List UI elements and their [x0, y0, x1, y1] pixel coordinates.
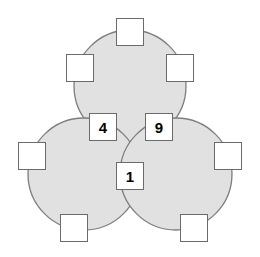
- box-top-left[interactable]: [66, 54, 94, 82]
- box-center[interactable]: 1: [116, 162, 144, 190]
- box-bottom-right[interactable]: [180, 214, 208, 242]
- box-left[interactable]: [18, 142, 46, 170]
- puzzle-figure: 491: [0, 0, 260, 257]
- box-right[interactable]: [214, 142, 242, 170]
- box-bottom-left[interactable]: [60, 214, 88, 242]
- box-mid-left[interactable]: 4: [89, 113, 117, 141]
- box-top-right[interactable]: [166, 54, 194, 82]
- box-mid-right[interactable]: 9: [145, 113, 173, 141]
- box-top[interactable]: [116, 18, 144, 46]
